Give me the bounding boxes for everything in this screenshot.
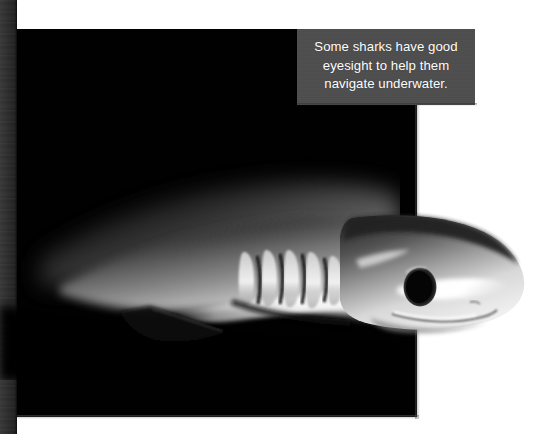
photo-bottom-shadow xyxy=(17,415,419,419)
nostril xyxy=(470,302,480,304)
caption-text: Some sharks have good eyesight to help t… xyxy=(307,38,465,94)
photo-right-shadow xyxy=(415,104,420,419)
photo-caption: Some sharks have good eyesight to help t… xyxy=(297,29,475,105)
caption-bottom-shadow xyxy=(297,103,477,106)
book-page: Some sharks have good eyesight to help t… xyxy=(0,0,550,434)
page-binding-strip xyxy=(0,0,17,434)
